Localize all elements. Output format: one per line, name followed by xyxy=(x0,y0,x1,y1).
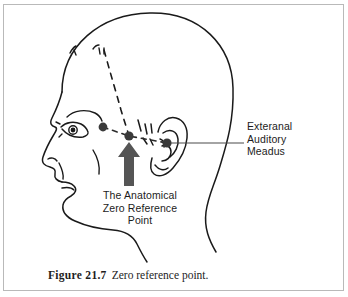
zero-reference-arrow xyxy=(118,142,140,186)
hair-tick-2 xyxy=(74,50,76,55)
figure-page: Exteranal Auditory Meadus The Anatomical… xyxy=(0,0,348,297)
figure-caption-text: Zero reference point. xyxy=(112,269,209,281)
ear-label-line-3: Meadus xyxy=(247,145,292,158)
ear-label-line-1: Exteranal xyxy=(247,120,292,133)
ear-concha xyxy=(162,145,171,161)
ear-label-line-2: Auditory xyxy=(247,133,292,146)
nostril xyxy=(48,158,57,161)
zero-reference-point-label: The Anatomical Zero Reference Point xyxy=(84,189,196,227)
figure-caption-number: Figure 21.7 xyxy=(48,269,107,281)
nasolabial-crease xyxy=(59,163,63,179)
sideburn-tick-2 xyxy=(145,124,147,134)
zero-label-line-2: Zero Reference xyxy=(84,202,196,215)
mouth-line xyxy=(62,188,74,190)
cheek-contour xyxy=(93,150,99,174)
figure-caption: Figure 21.7Zero reference point. xyxy=(48,269,208,281)
hair-tick-4 xyxy=(99,48,100,54)
tear-duct-tick xyxy=(59,134,62,137)
reference-axis-dashed xyxy=(103,127,167,143)
sideburn-ticks-group xyxy=(138,120,153,145)
zero-label-line-1: The Anatomical xyxy=(84,189,196,202)
head-anatomy-illustration xyxy=(0,0,348,297)
external-auditory-meatus-label: Exteranal Auditory Meadus xyxy=(247,120,292,158)
zero-reference-marker xyxy=(124,131,133,140)
external-auditory-meatus-marker xyxy=(162,138,171,147)
eye-lash-tick xyxy=(56,122,60,124)
sideburn-tick-3 xyxy=(151,124,152,133)
eyebrow xyxy=(67,111,102,121)
pupil xyxy=(71,128,74,131)
temporal-hairline-dashed xyxy=(104,50,129,136)
zero-label-line-3: Point xyxy=(84,214,196,227)
hair-tick-3 xyxy=(93,45,99,49)
sideburn-tick-1 xyxy=(138,120,141,131)
outer-canthus-marker xyxy=(99,123,108,132)
ear-lobe xyxy=(155,165,168,170)
